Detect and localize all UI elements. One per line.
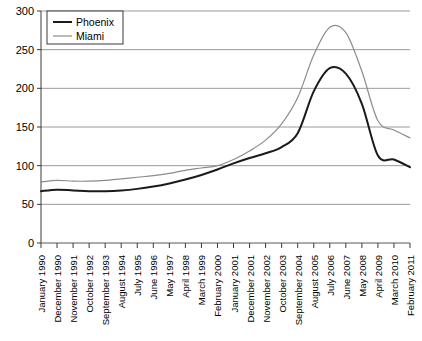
x-tick-label: February 2000	[212, 255, 223, 317]
chart-container: 050100150200250300 January 1990December …	[0, 0, 422, 341]
x-tick-label: March 1999	[196, 255, 207, 305]
x-tick-label: April 1998	[180, 255, 191, 298]
x-tick-label: January 2001	[229, 255, 240, 313]
x-tick-label: August 2005	[309, 255, 320, 308]
x-tick-label: August 1994	[116, 255, 127, 308]
series-line-phoenix	[41, 67, 410, 191]
legend-label-miami: Miami	[76, 30, 104, 42]
x-tick-label: July 1995	[132, 255, 143, 296]
x-tick-label: November 2002	[261, 255, 272, 323]
data-series-group	[41, 25, 410, 191]
x-tick-label: September 1993	[100, 255, 111, 325]
x-tick-label: January 1990	[36, 255, 47, 313]
x-tick-label: May 2008	[357, 255, 368, 297]
y-tick-label: 150	[16, 121, 34, 133]
x-tick-label: March 2010	[389, 255, 400, 305]
x-tick-label: December 1990	[52, 255, 63, 323]
y-tick-label: 200	[16, 82, 34, 94]
x-tick-labels: January 1990December 1990November 1991Oc…	[36, 255, 416, 325]
x-tick-marks	[41, 243, 410, 248]
legend-label-phoenix: Phoenix	[76, 16, 115, 28]
house-price-index-line-chart: 050100150200250300 January 1990December …	[0, 0, 422, 341]
y-tick-label: 300	[16, 5, 34, 17]
x-tick-label: April 2009	[373, 255, 384, 298]
y-tick-label: 50	[22, 198, 34, 210]
gridlines-group	[41, 11, 410, 243]
x-tick-label: February 2011	[405, 255, 416, 316]
x-tick-label: May 1997	[164, 255, 175, 297]
x-tick-label: June 2007	[341, 255, 352, 299]
x-tick-label: December 2001	[245, 255, 256, 323]
x-tick-label: June 1996	[148, 255, 159, 299]
chart-legend: PhoenixMiami	[47, 11, 123, 44]
y-tick-label: 100	[16, 160, 34, 172]
series-line-miami	[41, 25, 410, 182]
x-tick-label: November 1991	[68, 255, 79, 323]
y-tick-label: 250	[16, 44, 34, 56]
x-tick-label: September 2004	[293, 255, 304, 325]
x-tick-label: July 2006	[325, 255, 336, 296]
x-tick-label: October 1992	[84, 255, 95, 313]
x-tick-label: October 2003	[277, 255, 288, 313]
y-tick-label: 0	[28, 237, 34, 249]
y-tick-marks	[37, 11, 41, 243]
y-tick-labels: 050100150200250300	[16, 5, 34, 249]
